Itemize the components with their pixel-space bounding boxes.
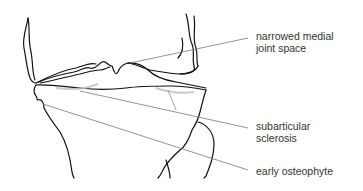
tibia-lateral-outline [158,90,206,178]
label-early-osteophyte: early osteophyte [256,165,333,177]
tibia-medial-outline [34,85,74,178]
leader-line-osteophyte [43,104,248,170]
label-text: narrowed medial [256,30,334,42]
leader-line-joint-space [130,38,248,63]
fibula-outline [198,122,214,178]
label-text: early osteophyte [256,165,333,177]
label-text: subarticular [256,120,310,132]
leader-line-sclerosis [80,91,248,128]
label-narrowed-joint-space: narrowed medial joint space [256,30,334,54]
label-text: sclerosis [256,132,310,144]
knee-joint-illustration [0,0,363,191]
label-text: joint space [256,42,334,54]
label-subarticular-sclerosis: subarticular sclerosis [256,120,310,144]
knee-diagram: narrowed medial joint space subarticular… [0,0,363,191]
femur-left-outline [23,18,36,83]
